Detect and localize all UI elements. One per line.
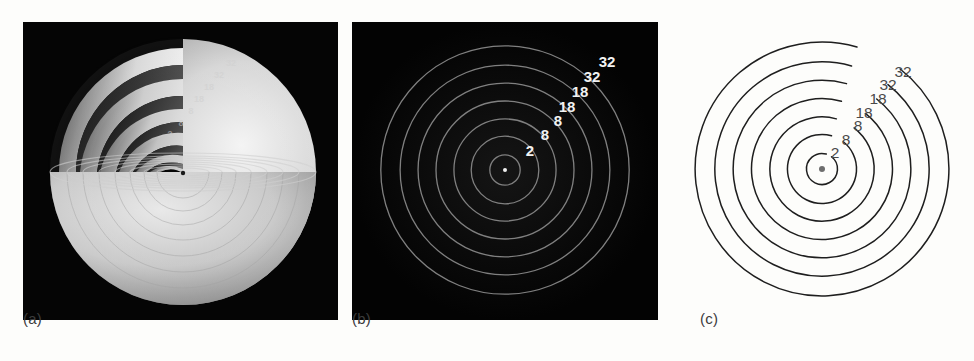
shell-capacity-label: 32 — [584, 68, 601, 85]
shell-capacity-label: 32 — [226, 58, 236, 68]
shell-capacity-label: 8 — [842, 131, 851, 148]
panel-c-nucleus-dot — [819, 166, 825, 172]
shell-capacity-label: 32 — [214, 70, 224, 80]
shell-capacity-label: 8 — [188, 106, 193, 116]
shell-capacity-label: 2 — [831, 144, 840, 161]
panel-c-caption: (c) — [700, 310, 718, 327]
panel-b-image: 28818183232 — [352, 22, 658, 320]
panel-c-lineart-rings: 28818183232 (c) — [688, 22, 958, 320]
panel-a-image: 28818183232 — [23, 22, 338, 320]
shell-capacity-label: 18 — [559, 98, 576, 115]
shell-capacity-label: 2 — [167, 129, 172, 139]
cutaway-sphere-render: 28818183232 — [23, 22, 338, 320]
shell-capacity-label: 8 — [178, 118, 183, 128]
shell-capacity-label: 32 — [599, 53, 616, 70]
shell-capacity-label: 8 — [541, 126, 549, 143]
dark-ring-diagram: 28818183232 — [352, 22, 658, 320]
lineart-ring-diagram: 28818183232 — [688, 22, 958, 320]
panel-c-shell-labels: 28818183232 — [831, 63, 912, 161]
panel-a-3d-sphere: 28818183232 (a) — [23, 22, 338, 320]
shell-capacity-label: 2 — [526, 142, 534, 159]
shell-capacity-label: 18 — [572, 83, 589, 100]
electron-shell-figure: 28818183232 (a) 28818183232 (b) — [0, 0, 974, 361]
panel-b-nucleus-dot — [503, 168, 507, 172]
panel-a-caption: (a) — [23, 310, 42, 327]
shell-capacity-label: 18 — [204, 82, 214, 92]
panel-b-caption: (b) — [352, 310, 371, 327]
panel-b-dark-rings: 28818183232 (b) — [352, 22, 658, 320]
panel-c-image: 28818183232 — [688, 22, 958, 320]
shell-capacity-label: 32 — [894, 63, 911, 80]
shell-capacity-label: 18 — [194, 94, 204, 104]
